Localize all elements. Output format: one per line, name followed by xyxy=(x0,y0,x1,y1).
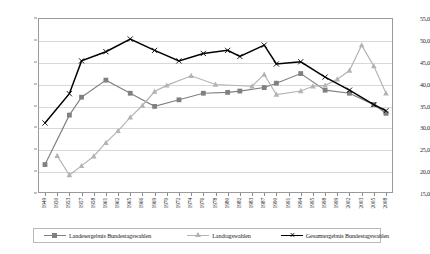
x-axis-tick-mark xyxy=(130,193,131,196)
x-axis-tick-label: 1994 xyxy=(298,198,304,208)
y-axis-tick-label: 50,0 xyxy=(396,36,430,43)
x-axis-tick-label: 1995 xyxy=(310,198,316,208)
chart-container: 55,050,045,040,035,030,025,020,015,0 194… xyxy=(0,0,430,254)
x-axis-tick-label: 1987 xyxy=(261,198,267,208)
gridline xyxy=(39,128,392,129)
x-axis-tick-mark xyxy=(167,193,168,196)
x-axis-tick-label: 1976 xyxy=(200,198,206,208)
gridline xyxy=(39,172,392,173)
x-axis-tick-mark xyxy=(179,193,180,196)
x-axis-tick-mark xyxy=(313,193,314,196)
legend-swatch-icon xyxy=(44,231,66,240)
x-axis-tick-label: 1972 xyxy=(176,198,182,208)
x-axis-tick-label: 1991 xyxy=(286,198,292,208)
x-axis-tick-label: 1970 xyxy=(164,198,170,208)
x-axis-tick-label: 1966 xyxy=(139,198,145,208)
x-axis-tick-label: 2008 xyxy=(383,198,389,208)
x-axis-tick-mark xyxy=(228,193,229,196)
x-axis-tick-mark xyxy=(69,193,70,196)
chart-legend: Landesergebnis BundestagswahlenLandtagsw… xyxy=(33,228,381,243)
gridline xyxy=(39,63,392,64)
y-axis-tick-mark xyxy=(34,127,37,128)
y-axis-tick-label: 45,0 xyxy=(396,58,430,65)
x-axis-tick-mark xyxy=(191,193,192,196)
x-axis-tick-label: 1950 xyxy=(54,198,60,208)
x-axis-tick-label: 1958 xyxy=(91,198,97,208)
x-axis-tick-mark xyxy=(142,193,143,196)
x-axis-tick-label: 2005 xyxy=(371,198,377,208)
gridline xyxy=(39,41,392,42)
x-axis-tick-mark xyxy=(362,193,363,196)
legend-label: Landtagswahlen xyxy=(212,233,251,239)
legend-entry[interactable]: Landtagswahlen xyxy=(187,229,251,242)
x-axis-tick-mark xyxy=(289,193,290,196)
x-axis-tick-label: 1961 xyxy=(103,198,109,208)
y-axis-tick-label: 30,0 xyxy=(396,124,430,131)
y-axis-tick-mark xyxy=(34,18,37,19)
x-axis-tick-mark xyxy=(155,193,156,196)
y-axis-tick-label: 40,0 xyxy=(396,80,430,87)
x-axis-tick-mark xyxy=(374,193,375,196)
x-axis-tick-label: 1953 xyxy=(66,198,72,208)
x-axis-tick-label: 1957 xyxy=(79,198,85,208)
legend-label: Landesergebnis Bundestagswahlen xyxy=(69,233,151,239)
legend-entry[interactable]: Landesergebnis Bundestagswahlen xyxy=(44,229,151,242)
gridline xyxy=(39,85,392,86)
y-axis-tick-label: 35,0 xyxy=(396,102,430,109)
x-axis-tick-mark xyxy=(82,193,83,196)
x-axis-tick-label: 1949 xyxy=(42,198,48,208)
legend-swatch-icon: × xyxy=(281,231,303,240)
x-axis-tick-label: 1969 xyxy=(152,198,158,208)
x-axis-tick-mark xyxy=(240,193,241,196)
x-axis-tick-label: 1999 xyxy=(334,198,340,208)
x-axis-tick-mark xyxy=(276,193,277,196)
x-axis-tick-label: 1980 xyxy=(225,198,231,208)
x-axis-tick-label: 1974 xyxy=(188,198,194,208)
x-axis-tick-label: 1982 xyxy=(237,198,243,208)
x-axis-tick-mark xyxy=(264,193,265,196)
x-axis-tick-label: 1965 xyxy=(127,198,133,208)
x-axis-tick-mark xyxy=(301,193,302,196)
x-axis-tick-mark xyxy=(386,193,387,196)
y-axis-tick-mark xyxy=(34,39,37,40)
x-axis-tick-mark xyxy=(45,193,46,196)
y-axis-tick-mark xyxy=(34,83,37,84)
x-axis-tick-mark xyxy=(57,193,58,196)
y-axis-tick-label: 20,0 xyxy=(396,168,430,175)
y-axis-tick-mark xyxy=(34,193,37,194)
x-axis-tick-mark xyxy=(349,193,350,196)
y-axis-tick-mark xyxy=(34,149,37,150)
x-axis-tick-label: 1962 xyxy=(115,198,121,208)
x-axis-tick-mark xyxy=(118,193,119,196)
x-axis-tick-label: 1998 xyxy=(322,198,328,208)
y-axis-tick-label: 15,0 xyxy=(396,190,430,197)
y-axis-tick-mark xyxy=(34,61,37,62)
gridline xyxy=(39,150,392,151)
x-axis-tick-mark xyxy=(216,193,217,196)
x-axis-tick-mark xyxy=(325,193,326,196)
y-axis-tick-label: 25,0 xyxy=(396,146,430,153)
x-axis-tick-mark xyxy=(252,193,253,196)
x-axis-tick-mark xyxy=(203,193,204,196)
legend-label: Gesamtergebnis Bundestagswahlen xyxy=(306,233,389,239)
x-axis-tick-mark xyxy=(337,193,338,196)
x-axis-tick-mark xyxy=(106,193,107,196)
x-axis-tick-label: 1978 xyxy=(213,198,219,208)
y-axis-tick-label: 55,0 xyxy=(396,15,430,22)
x-axis-tick-label: 1990 xyxy=(273,198,279,208)
legend-entry[interactable]: ×Gesamtergebnis Bundestagswahlen xyxy=(281,229,389,242)
x-axis-tick-label: 2003 xyxy=(359,198,365,208)
x-axis-tick-label: 1983 xyxy=(249,198,255,208)
y-axis-tick-mark xyxy=(34,105,37,106)
x-axis-tick-mark xyxy=(94,193,95,196)
x-axis-tick-label: 2002 xyxy=(346,198,352,208)
y-axis-tick-mark xyxy=(34,171,37,172)
plot-area xyxy=(38,18,393,193)
legend-swatch-icon xyxy=(187,231,209,240)
gridline xyxy=(39,107,392,108)
